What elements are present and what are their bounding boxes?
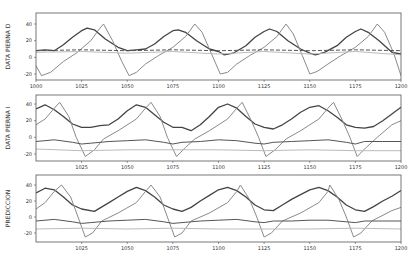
x-tick-label: 1100 — [212, 245, 225, 251]
y-tick-label: 40 — [26, 21, 32, 27]
x-tick-label: 1050 — [121, 164, 134, 170]
series-dark-flat-line — [36, 50, 401, 51]
x-tick-label: 1125 — [258, 245, 271, 251]
x-tick-label: 1150 — [303, 83, 316, 89]
series-light-flat-line — [36, 228, 401, 229]
series-medium-sawtooth-line — [36, 102, 401, 156]
y-tick-label: 40 — [26, 101, 32, 107]
x-tick-label: 1100 — [212, 164, 225, 170]
x-tick-label: 1025 — [75, 83, 88, 89]
chart-canvas: -200204010001025105010751100112511501175… — [0, 0, 419, 265]
x-tick-label: 1025 — [75, 245, 88, 251]
x-tick-label: 1200 — [395, 83, 408, 89]
x-tick-label: 1150 — [303, 245, 316, 251]
y-tick-label: 20 — [26, 198, 32, 204]
y-tick-label: 0 — [29, 134, 32, 140]
subplot-2: -200204010251050107511001125115011751200… — [4, 95, 407, 170]
x-tick-label: 1175 — [349, 245, 362, 251]
y-axis-label: PREDICCION — [4, 190, 11, 227]
y-axis-label: DATA PIERNA D — [4, 23, 11, 69]
x-tick-label: 1200 — [395, 164, 408, 170]
y-tick-label: 20 — [26, 37, 32, 43]
y-tick-label: 0 — [29, 214, 32, 220]
y-tick-label: -20 — [24, 151, 32, 157]
x-tick-label: 1025 — [75, 164, 88, 170]
series-group — [36, 102, 401, 156]
x-tick-label: 1125 — [258, 83, 271, 89]
x-tick-label: 1050 — [121, 245, 134, 251]
subplot-3: -200204010251050107511001125115011751200… — [4, 175, 407, 251]
series-group — [36, 24, 401, 76]
x-tick-label: 1075 — [167, 245, 180, 251]
series-dark-flat-line — [36, 140, 401, 144]
y-tick-label: 20 — [26, 117, 32, 123]
x-tick-label: 1175 — [349, 83, 362, 89]
series-light-flat-line — [36, 149, 401, 151]
subplot-1: -200204010001025105010751100112511501175… — [4, 13, 407, 89]
y-tick-label: 40 — [26, 182, 32, 188]
x-tick-label: 1075 — [167, 83, 180, 89]
x-tick-label: 1200 — [395, 245, 408, 251]
y-axis-label: DATA PIERNA I — [4, 106, 11, 149]
x-tick-label: 1100 — [212, 83, 225, 89]
x-tick-label: 1000 — [30, 83, 43, 89]
y-tick-label: -20 — [24, 71, 32, 77]
x-tick-label: 1150 — [303, 164, 316, 170]
series-dark-flat-line — [36, 219, 401, 223]
x-tick-label: 1075 — [167, 164, 180, 170]
x-tick-label: 1125 — [258, 164, 271, 170]
series-group — [36, 185, 401, 237]
axes-frame — [36, 175, 401, 242]
y-tick-label: -20 — [24, 230, 32, 236]
y-tick-label: 0 — [29, 54, 32, 60]
x-tick-label: 1175 — [349, 164, 362, 170]
chart-figure: -200204010001025105010751100112511501175… — [0, 0, 419, 265]
series-dark-thick-line — [36, 104, 401, 131]
x-tick-label: 1050 — [121, 83, 134, 89]
